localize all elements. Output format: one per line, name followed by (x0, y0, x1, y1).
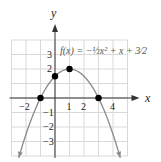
point-y-intercept (52, 73, 58, 79)
point-vertex (66, 66, 72, 72)
y-axis-label: y (51, 7, 56, 19)
function-label: f(x) = −½x² + x + 3⁄2 (60, 45, 147, 56)
y-tick-label: 2 (47, 64, 52, 74)
x-tick-label: 2 (81, 102, 86, 112)
x-tick-label: −2 (19, 102, 30, 112)
y-tick-label: −3 (43, 137, 54, 147)
x-axis-label: x (145, 92, 150, 104)
function-graph (0, 0, 161, 162)
x-tick-label: 4 (110, 102, 115, 112)
y-tick-label: −2 (43, 122, 54, 132)
x-tick-label: 1 (67, 102, 72, 112)
point-x-intercept (95, 95, 101, 101)
y-tick-label: −1 (43, 108, 54, 118)
point-x-intercept (37, 95, 43, 101)
y-tick-label: 3 (47, 50, 52, 60)
